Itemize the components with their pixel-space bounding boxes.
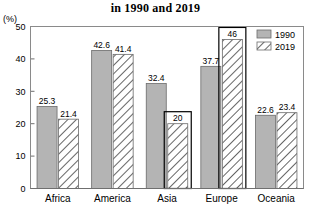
value-label-2019: 41.4: [115, 44, 132, 54]
value-label-2019: 21.4: [60, 109, 77, 119]
bar-2019: [113, 54, 133, 188]
bar-1990: [255, 115, 275, 188]
bar-2019: [222, 39, 242, 188]
y-tick-label: 0: [20, 184, 25, 194]
y-tick-label: 50: [15, 22, 25, 32]
bar-chart: in 1990 and 2019 (%) 01020304050 25.321.…: [0, 0, 311, 218]
y-tick-label: 10: [15, 151, 25, 161]
value-label-2019: 23.4: [279, 102, 296, 112]
bar-1990: [201, 66, 221, 188]
value-label-1990: 42.6: [93, 40, 110, 50]
legend-label-2019: 2019: [275, 42, 295, 52]
value-label-2019: 20: [173, 113, 183, 123]
x-axis-labels: AfricaAmericaAsiaEuropeOceania: [45, 193, 295, 204]
bar-1990: [37, 107, 57, 189]
value-label-1990: 32.4: [148, 73, 165, 83]
bar-1990: [92, 50, 112, 188]
value-label-2019: 46: [228, 29, 238, 39]
x-category-label-africa: Africa: [45, 193, 71, 204]
plot-area: 01020304050 25.321.442.641.432.42037.746…: [0, 0, 311, 218]
bar-2019: [59, 119, 79, 188]
legend-swatch-2019: [257, 42, 271, 50]
y-tick-label: 30: [15, 87, 25, 97]
y-tick-label: 40: [15, 54, 25, 64]
x-category-label-europe: Europe: [205, 193, 238, 204]
y-tick-label: 20: [15, 119, 25, 129]
x-category-label-asia: Asia: [157, 193, 177, 204]
value-label-1990: 37.7: [203, 56, 220, 66]
value-label-1990: 22.6: [257, 105, 274, 115]
y-axis-ticks: 01020304050: [15, 22, 34, 194]
legend: 19902019: [257, 30, 295, 52]
bar-2019: [168, 124, 188, 189]
x-category-label-oceania: Oceania: [258, 193, 296, 204]
bar-1990: [146, 84, 166, 189]
legend-label-1990: 1990: [275, 30, 295, 40]
value-label-1990: 25.3: [39, 96, 56, 106]
bar-group: 25.321.442.641.432.42037.74622.623.4: [37, 29, 297, 189]
x-category-label-america: America: [94, 193, 131, 204]
bar-2019: [277, 113, 297, 189]
legend-swatch-1990: [257, 30, 271, 38]
